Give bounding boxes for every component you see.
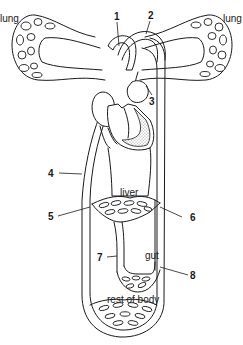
label-1: 1 [114, 11, 120, 22]
label-rest-of-body: rest of body [107, 294, 159, 305]
label-lung-left: lung [0, 13, 19, 24]
label-7: 7 [97, 252, 103, 263]
label-4: 4 [48, 168, 54, 179]
label-6: 6 [190, 212, 196, 223]
label-5: 5 [48, 211, 54, 222]
label-lung-right: lung [223, 13, 242, 24]
organ-labels: lung lung liver gut rest of body [0, 13, 242, 305]
label-liver: liver [120, 187, 139, 198]
heart [92, 81, 154, 150]
right-lung [140, 15, 232, 80]
label-8: 8 [190, 270, 196, 281]
gut-region [117, 262, 160, 292]
label-gut: gut [145, 250, 159, 261]
liver-capillaries [92, 196, 160, 222]
label-3: 3 [149, 96, 155, 107]
leader-lines [58, 21, 188, 275]
gut-capillaries [117, 270, 160, 292]
circulation-diagram: lung lung liver gut rest of body 1 2 3 4… [0, 0, 243, 345]
left-lung-capillaries [17, 19, 56, 78]
label-2: 2 [148, 10, 154, 21]
left-lung [12, 15, 105, 80]
right-lung-capillaries [191, 19, 227, 77]
